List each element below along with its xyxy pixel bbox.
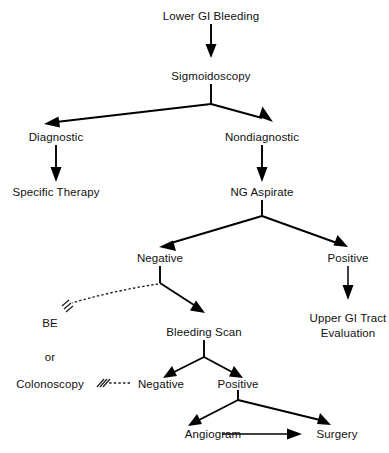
node-specific-therapy: Specific Therapy: [12, 186, 99, 198]
node-ng-negative: Negative: [137, 252, 183, 264]
node-upper-gi-tract-line1: Upper GI Tract: [310, 312, 388, 324]
node-ng-positive: Positive: [327, 252, 368, 264]
flowchart-diagram: Lower GI Bleeding Sigmoidoscopy Diagnost…: [0, 0, 389, 453]
node-bleeding-scan: Bleeding Scan: [166, 326, 241, 338]
node-surgery: Surgery: [317, 428, 358, 440]
node-lower-gi-bleeding: Lower GI Bleeding: [163, 10, 259, 22]
node-scan-negative: Negative: [138, 378, 184, 390]
node-upper-gi-tract-line2: Evaluation: [321, 327, 376, 339]
node-scan-positive: Positive: [217, 378, 258, 390]
node-be: BE: [42, 317, 58, 329]
node-diagnostic: Diagnostic: [29, 131, 84, 143]
node-sigmoidoscopy: Sigmoidoscopy: [171, 70, 250, 82]
node-colonoscopy: Colonoscopy: [16, 378, 84, 390]
node-nondiagnostic: Nondiagnostic: [225, 131, 299, 143]
node-or: or: [45, 351, 55, 363]
node-ng-aspirate: NG Aspirate: [230, 186, 293, 198]
node-angiogram: Angiogram: [185, 428, 242, 440]
